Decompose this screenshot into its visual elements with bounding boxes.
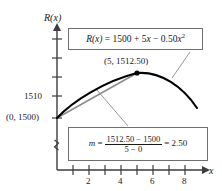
slope-callout-box: m =1512.50 − 15005 − 0= 2.50	[68, 127, 208, 161]
y-axis-title: R(x)	[44, 13, 61, 23]
secant-line	[57, 73, 137, 118]
x-axis-title: x	[209, 166, 213, 176]
equation-leader-line	[172, 52, 190, 78]
x-tick-label-2: 2	[86, 177, 91, 186]
equation-rhs-b: − 0.50	[151, 34, 178, 44]
slope-denominator: 5 − 0	[123, 145, 145, 154]
slope-equals: =	[97, 138, 102, 148]
x-tick-label-6: 6	[150, 177, 155, 186]
slope-text: m =1512.50 − 15005 − 0= 2.50	[89, 135, 188, 154]
slope-leader-line	[97, 90, 128, 126]
equation-lhs: R(x)	[86, 34, 102, 44]
revenue-curve	[57, 73, 197, 118]
slope-fraction: 1512.50 − 15005 − 0	[105, 135, 163, 154]
equation-callout-box: R(x) = 1500 + 5x − 0.50x2	[68, 28, 203, 50]
y-tick-label-1510: 1510	[24, 92, 42, 101]
slope-numerator: 1512.50 − 1500	[105, 135, 163, 145]
vertex-point-label: (5, 1512.50)	[104, 57, 148, 66]
x-tick-label-4: 4	[118, 177, 123, 186]
x-tick-label-8: 8	[182, 177, 187, 186]
vertex-point-marker	[134, 70, 139, 75]
equation-exponent: 2	[182, 32, 185, 39]
revenue-function-figure: R(x) x 1510 2 4 6 8 (5, 1512.50) (0, 150…	[0, 0, 222, 191]
slope-result: 2.50	[172, 138, 188, 148]
equation-text: R(x) = 1500 + 5x − 0.50x2	[86, 34, 185, 44]
equation-rhs-a: 1500 + 5	[113, 34, 147, 44]
intercept-point-label: (0, 1500)	[6, 113, 39, 122]
y-axis-break-icon	[55, 140, 59, 150]
